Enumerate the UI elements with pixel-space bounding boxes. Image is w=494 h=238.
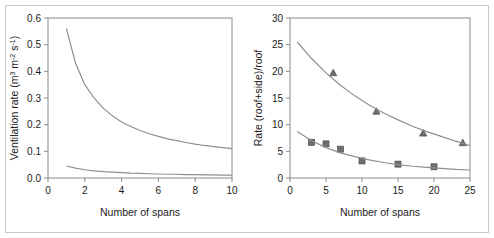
right-ytick-1: 5 xyxy=(277,146,283,157)
left-y-axis-title: Ventilation rate (m3 m-2 s-1) xyxy=(8,36,20,160)
left-xtick-0: 0 xyxy=(45,185,51,196)
left-xtick-2: 4 xyxy=(119,185,125,196)
right-x-tick-labels: 0 5 10 15 20 25 xyxy=(287,185,476,196)
left-ytick-5: 0.5 xyxy=(27,39,41,50)
left-ylabel-suffix: ) xyxy=(8,36,20,40)
right-xtick-0: 0 xyxy=(287,185,293,196)
left-y-tick-labels: 0.0 0.1 0.2 0.3 0.4 0.5 0.6 xyxy=(27,13,41,184)
right-xtick-3: 15 xyxy=(392,185,404,196)
left-x-tick-labels: 0 2 4 6 8 10 xyxy=(45,185,238,196)
left-x-axis-title: Number of spans xyxy=(100,206,180,218)
right-x-axis-title: Number of spans xyxy=(340,206,420,218)
chart-panel-right: 0 5 10 15 20 25 30 0 5 10 15 xyxy=(242,0,484,228)
left-ytick-6: 0.6 xyxy=(27,13,41,24)
right-y-tick-labels: 0 5 10 15 20 25 30 xyxy=(272,13,284,184)
right-plot-svg: 0 5 10 15 20 25 30 0 5 10 15 xyxy=(242,0,484,228)
right-y-axis-title: Rate (roof+side)/roof xyxy=(252,50,264,147)
right-xtick-4: 20 xyxy=(428,185,440,196)
left-xtick-3: 6 xyxy=(156,185,162,196)
right-xtick-5: 25 xyxy=(464,185,476,196)
square-marker xyxy=(337,146,343,152)
square-marker xyxy=(431,164,437,170)
left-ylabel-mid1: m xyxy=(8,60,20,72)
right-plot-area xyxy=(290,18,470,178)
figure-root: 0.0 0.1 0.2 0.3 0.4 0.5 0.6 0 2 4 xyxy=(0,0,494,238)
left-ytick-0: 0.0 xyxy=(27,173,41,184)
chart-panel-left: 0.0 0.1 0.2 0.3 0.4 0.5 0.6 0 2 4 xyxy=(0,0,242,228)
left-ylabel-prefix: Ventilation rate (m xyxy=(8,75,20,160)
left-y-ticks xyxy=(44,18,48,178)
left-xtick-1: 2 xyxy=(82,185,88,196)
left-ytick-4: 0.4 xyxy=(27,66,41,77)
left-ytick-3: 0.3 xyxy=(27,93,41,104)
left-ytick-1: 0.1 xyxy=(27,146,41,157)
right-ytick-5: 25 xyxy=(272,39,284,50)
right-ytick-2: 10 xyxy=(272,119,284,130)
right-ytick-3: 15 xyxy=(272,93,284,104)
right-ytick-6: 30 xyxy=(272,13,284,24)
right-xtick-1: 5 xyxy=(323,185,329,196)
left-plot-area xyxy=(48,18,232,178)
left-ytick-2: 0.2 xyxy=(27,119,41,130)
right-x-ticks xyxy=(290,178,470,182)
left-ylabel-mid2: s xyxy=(8,46,20,54)
left-xtick-5: 10 xyxy=(226,185,238,196)
left-plot-svg: 0.0 0.1 0.2 0.3 0.4 0.5 0.6 0 2 4 xyxy=(0,0,242,228)
left-xtick-4: 8 xyxy=(192,185,198,196)
right-xtick-2: 10 xyxy=(356,185,368,196)
right-ytick-4: 20 xyxy=(272,66,284,77)
right-y-ticks xyxy=(286,18,290,178)
right-ytick-0: 0 xyxy=(277,173,283,184)
left-x-ticks xyxy=(48,178,232,182)
